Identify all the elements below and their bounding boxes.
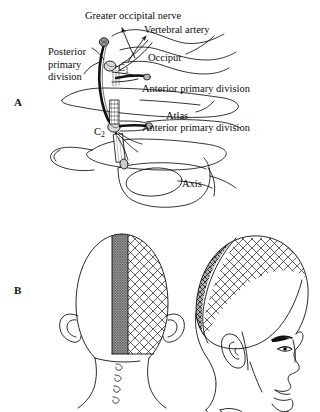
label-c1-vertebra: C1 — [118, 62, 129, 75]
label-c2-vertebra: C2 — [94, 126, 105, 139]
label-vertebral-artery: Vertebral artery — [144, 24, 210, 36]
label-occiput: Occiput — [148, 52, 181, 64]
panel-b-illustration — [0, 212, 320, 412]
c2-letter: C — [94, 126, 101, 137]
label-anterior-primary-division-upper: Anterior primary division — [142, 83, 250, 95]
c1-subscript: 1 — [125, 66, 129, 75]
label-anterior-primary-division-lower: Anterior primary division — [142, 122, 250, 134]
c2-subscript: 2 — [101, 130, 105, 139]
label-atlas: Atlas — [166, 110, 188, 122]
c1-letter: C — [118, 62, 125, 73]
label-posterior-primary-division: Posterior primary division — [48, 46, 86, 84]
label-greater-occipital-nerve: Greater occipital nerve — [85, 10, 181, 22]
figure-root: A — [0, 0, 320, 412]
label-axis: Axis — [182, 178, 202, 190]
